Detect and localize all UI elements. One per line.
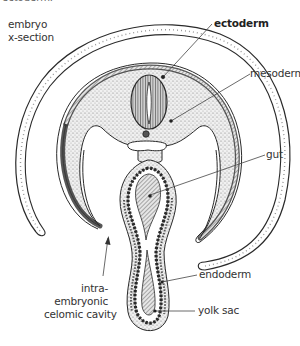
label-line: intra- <box>44 282 108 295</box>
neural-tube <box>131 75 167 129</box>
dorsal-cavity <box>128 141 167 151</box>
gut-yolk-stalk <box>120 160 176 331</box>
label-line: x-section <box>8 31 54 44</box>
label-line: celomic cavity <box>44 308 108 321</box>
label-ectoderm: ectoderm <box>214 17 269 30</box>
notochord <box>143 131 149 137</box>
label-line: embryo <box>8 18 54 31</box>
label-intraembryonic-celomic-cavity: intra- embryonic celomic cavity <box>44 282 108 321</box>
label-endoderm: endoderm <box>199 268 251 281</box>
label-embryo-x-section: embryo x-section <box>8 18 54 44</box>
embryo-diagram: ectoderm. embryo x-section ectoderm meso… <box>0 0 300 346</box>
label-gut: gut <box>266 148 283 161</box>
leader-endoderm <box>162 275 197 282</box>
label-line: embryonic <box>44 295 108 308</box>
label-yolk-sac: yolk sac <box>198 304 239 317</box>
top-cutoff-caption: ectoderm. <box>2 0 53 3</box>
label-mesoderm: mesoderm <box>250 67 300 80</box>
